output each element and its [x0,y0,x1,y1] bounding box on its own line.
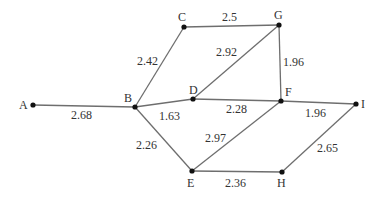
node-label-h: H [277,176,286,190]
node-label-g: G [274,8,283,22]
weight-b-c: 2.42 [137,54,158,68]
weighted-graph: A B C G D F I E H 2.68 2.42 2.5 2.92 1.9… [0,0,377,198]
edge-g-f [279,25,281,101]
edge-e-h [192,171,282,172]
node-label-d: D [189,83,198,97]
node-h [279,169,284,174]
node-label-e: E [187,176,194,190]
node-g [276,22,281,27]
weight-a-b: 2.68 [71,108,92,122]
edge-f-i [281,101,356,104]
node-d [190,96,195,101]
node-label-a: A [19,98,28,112]
node-a [30,102,35,107]
node-b [132,104,137,109]
edge-b-d [135,99,193,107]
edge-c-g [184,25,279,27]
weight-f-i: 1.96 [305,106,326,120]
weight-g-f: 1.96 [283,55,304,69]
weight-b-e: 2.26 [136,138,157,152]
node-label-f: F [285,85,292,99]
edge-d-f [193,99,281,101]
node-f [278,98,283,103]
weight-d-g: 2.92 [216,45,237,59]
weight-b-d: 1.63 [159,109,180,123]
weight-e-f: 2.97 [205,131,226,145]
node-c [181,24,186,29]
edge-a-b [33,105,135,107]
node-i [353,101,358,106]
node-e [189,168,194,173]
node-label-b: B [124,91,132,105]
weight-h-i: 2.65 [317,141,338,155]
weight-d-f: 2.28 [226,102,247,116]
weight-c-g: 2.5 [222,10,237,24]
edge-d-g [193,25,279,99]
node-label-c: C [178,10,186,24]
weight-e-h: 2.36 [225,176,246,190]
node-label-i: I [361,97,365,111]
